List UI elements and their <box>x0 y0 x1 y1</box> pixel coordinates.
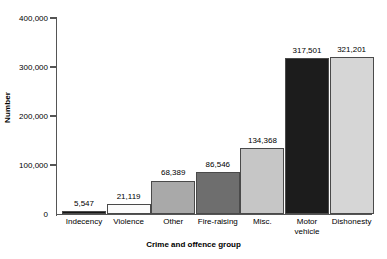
y-axis-title: Number <box>0 0 14 215</box>
x-axis-category-label: Indecency <box>66 217 102 227</box>
y-axis-tick-label: 100,000 <box>19 161 48 170</box>
x-axis-category-label: Fire-raising <box>198 217 238 227</box>
x-axis-category-label: Motor vehicle <box>295 217 320 236</box>
bar-value-label: 134,368 <box>248 136 277 145</box>
y-axis-tick <box>50 17 57 18</box>
x-axis-line <box>56 214 372 215</box>
bar-value-label: 21,119 <box>117 192 141 201</box>
y-axis-tick-label: 300,000 <box>19 63 48 72</box>
y-axis-tick <box>50 164 57 165</box>
bar-chart-figure: Number 0100,000200,000300,000400,000 5,5… <box>0 0 387 259</box>
y-axis-tick-label: 0 <box>44 210 48 219</box>
y-axis-tick-label: 200,000 <box>19 112 48 121</box>
bar-fire-raising <box>196 172 240 214</box>
bar-indecency <box>62 211 106 214</box>
x-axis-category-label: Other <box>163 217 183 227</box>
bar-value-label: 68,389 <box>161 168 185 177</box>
y-axis-tick <box>50 115 57 116</box>
y-axis-title-text: Number <box>3 92 12 123</box>
bar-value-label: 5,547 <box>74 199 94 208</box>
bar-other <box>151 181 195 215</box>
y-axis-tick <box>50 66 57 67</box>
y-axis-tick-label: 400,000 <box>19 14 48 23</box>
bar-value-label: 321,201 <box>337 45 366 54</box>
bar-misc <box>240 148 284 214</box>
bar-violence <box>107 204 151 214</box>
x-axis-category-label: Misc. <box>253 217 272 227</box>
x-axis-category-label: Dishonesty <box>332 217 372 227</box>
bar-dishonesty <box>330 57 374 214</box>
x-axis-title: Crime and offence group <box>0 240 387 249</box>
bar-motor-vehicle <box>285 58 329 214</box>
bar-value-label: 317,501 <box>293 46 322 55</box>
bar-value-label: 86,546 <box>206 160 230 169</box>
x-axis-category-label: Violence <box>113 217 144 227</box>
